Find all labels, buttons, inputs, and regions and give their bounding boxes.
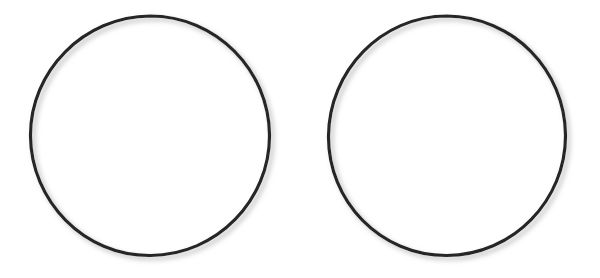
drawing-canvas [0, 0, 600, 278]
right-circle-outline [328, 16, 565, 256]
left-circle-outline [30, 16, 269, 256]
shape-layer [0, 0, 600, 278]
right-circle [328, 16, 565, 256]
circles-svg [0, 0, 600, 278]
left-circle [30, 16, 269, 256]
